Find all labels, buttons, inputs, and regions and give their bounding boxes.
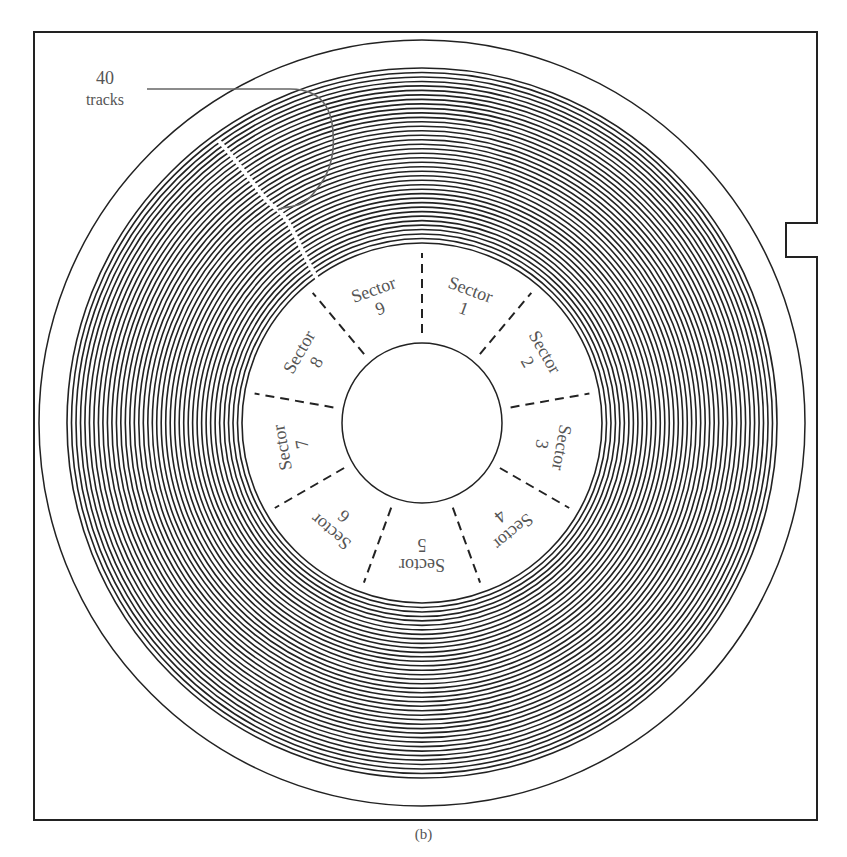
callout-label: tracks xyxy=(86,91,124,108)
svg-text:5: 5 xyxy=(418,535,427,555)
floppy-disk-diagram: Sector1Sector2Sector3Sector4Sector5Secto… xyxy=(0,0,847,857)
callout-count: 40 xyxy=(96,68,114,88)
svg-text:Sector: Sector xyxy=(399,555,445,575)
center-hub xyxy=(342,343,502,503)
figure-caption: (b) xyxy=(0,826,847,843)
